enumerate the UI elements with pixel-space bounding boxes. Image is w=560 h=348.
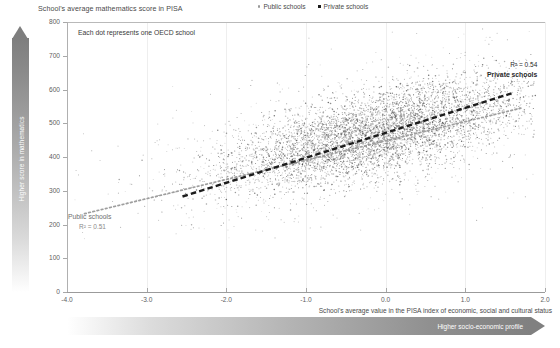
chart-note: Each dot represents one OECD school (78, 29, 195, 36)
private-series-label: Private schools (487, 71, 537, 78)
y-arrow-label: Higher score in mathematics (17, 116, 24, 201)
public-series-label: Public schools (68, 213, 111, 220)
x-axis-title: School's average value in the PISA index… (319, 307, 552, 314)
private-r2-label: R² = 0.54 (510, 61, 537, 68)
public-schools-trendline (85, 108, 523, 214)
public-schools-annotation: Public schools R² = 0.51 (68, 212, 111, 232)
public-r2-label: R² = 0.51 (79, 222, 111, 232)
private-schools-annotation: R² = 0.54 Private schools (487, 60, 537, 80)
higher-score-arrow-icon: Higher score in mathematics (12, 26, 29, 292)
x-arrow-label: Higher socio-economic profile (437, 323, 523, 330)
higher-socioeconomic-arrow-icon: Higher socio-economic profile (67, 317, 545, 335)
scatter-chart-figure: School's average mathematics score in PI… (0, 0, 560, 348)
scatter-plot-points (0, 0, 560, 348)
arrow-right-head-icon (531, 317, 545, 335)
